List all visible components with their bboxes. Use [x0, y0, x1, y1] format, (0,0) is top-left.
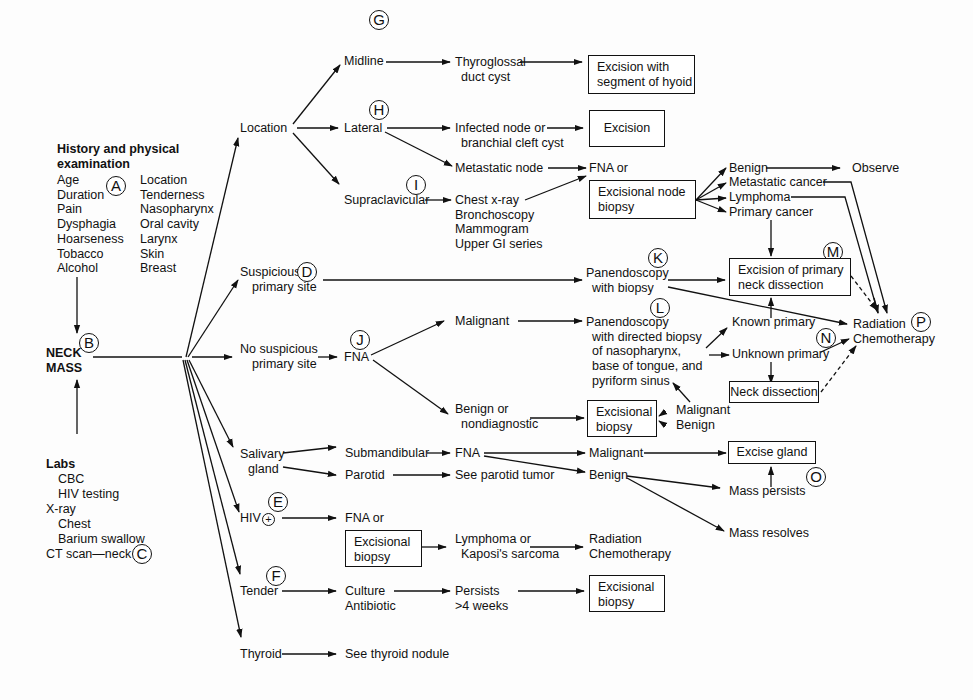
tender-excisional-biopsy-box: Excisional biopsy	[589, 575, 665, 612]
marker-p: P	[911, 312, 931, 332]
marker-e: E	[268, 492, 288, 512]
marker-h: H	[369, 100, 389, 120]
xray-item: Chest	[58, 517, 91, 532]
persists-label: Persists	[455, 584, 499, 599]
branch-hiv: HIV+	[240, 511, 275, 526]
marker-d: D	[297, 262, 317, 282]
thyroglossal-label: Thyroglossal	[455, 55, 526, 70]
parotid-label: Parotid	[345, 468, 385, 483]
neck-dissection-box: Neck dissection	[729, 381, 819, 403]
exam-item: Skin	[140, 247, 214, 262]
marker-k: K	[648, 248, 668, 268]
fna-or-label: FNA or	[589, 161, 628, 176]
lab-item: HIV testing	[58, 487, 119, 502]
neck-mass-label-line2: MASS	[46, 361, 82, 376]
pan-line: Panendoscopy	[586, 315, 703, 330]
mass-resolves-label: Mass resolves	[729, 526, 809, 541]
box-line: biopsy	[596, 420, 648, 435]
panendoscopy-label-line2: with biopsy	[592, 281, 654, 296]
supraclavicular-tests: Chest x-ray Bronchoscopy Mammogram Upper…	[455, 193, 543, 252]
box-line: biopsy	[598, 200, 687, 215]
box-line: biopsy	[354, 550, 413, 565]
excisional-biopsy-box: Excisional biopsy	[587, 400, 657, 437]
hiv-excisional-biopsy-box: Excisional biopsy	[345, 530, 422, 567]
lab-item: CBC	[58, 472, 84, 487]
neck-mass-label: NECK	[46, 346, 81, 361]
history-item: Tobacco	[57, 247, 124, 262]
box-line: Excisional node	[598, 185, 687, 200]
exam-item: Tenderness	[140, 188, 214, 203]
branch-tender: Tender	[240, 584, 278, 599]
antibiotic-label: Antibiotic	[345, 599, 396, 614]
test-item: Upper GI series	[455, 237, 543, 252]
outcome-primary: Primary cancer	[729, 205, 813, 220]
xray-item: Barium swallow	[58, 532, 145, 547]
history-col2: Location Tenderness Nasopharynx Oral cav…	[140, 173, 214, 276]
observe-label: Observe	[852, 161, 899, 176]
mass-persists-label: Mass persists	[729, 484, 805, 499]
hiv-chemotherapy-label: Chemotherapy	[589, 547, 671, 562]
exam-item: Nasopharynx	[140, 202, 214, 217]
lateral-label: Lateral	[344, 121, 382, 136]
eb-benign-label: Benign	[676, 418, 715, 433]
infected-node-label-line2: branchial cleft cyst	[461, 136, 564, 151]
box-line: Excisional	[354, 535, 413, 550]
midline-label: Midline	[344, 54, 384, 69]
salivary-malignant-label: Malignant	[589, 446, 643, 461]
hiv-fna-or-label: FNA or	[345, 511, 384, 526]
history-title: History and physical	[57, 142, 179, 157]
outcome-metastatic: Metastatic cancer	[729, 175, 827, 190]
marker-n: N	[816, 328, 836, 348]
excision-primary-box: Excision of primary neck dissection	[729, 258, 851, 296]
lymphoma-kaposi-label: Lymphoma or	[455, 532, 531, 547]
exam-item: Breast	[140, 261, 214, 276]
history-item: Alcohol	[57, 261, 124, 276]
pan-line: pyriform sinus	[586, 374, 703, 389]
supraclavicular-label: Supraclavicular	[344, 193, 429, 208]
history-item: Pain	[57, 202, 124, 217]
branch-suspicious: Suspicious	[240, 265, 300, 280]
branch-salivary: Salivary	[240, 447, 284, 462]
hiv-label: HIV	[240, 511, 261, 525]
neck-mass-flowchart: History and physical examination Age Dur…	[0, 0, 973, 700]
eb-malignant-label: Malignant	[676, 403, 730, 418]
pan-line: of nasopharynx,	[586, 344, 703, 359]
exam-item: Oral cavity	[140, 217, 214, 232]
box-line: Excisional	[598, 580, 656, 595]
branch-thyroid: Thyroid	[240, 647, 282, 662]
xray-label: X-ray	[46, 502, 76, 517]
history-title-line2: examination	[57, 157, 130, 172]
submandibular-label: Submandibular	[345, 446, 429, 461]
exam-item: Location	[140, 173, 214, 188]
marker-o: O	[806, 467, 826, 487]
salivary-fna-label: FNA	[455, 446, 480, 461]
branch-location: Location	[240, 121, 287, 136]
excision-box: Excision	[589, 110, 665, 147]
branch-salivary-line2: gland	[248, 462, 279, 477]
panendoscopy-label: Panendoscopy	[586, 266, 669, 281]
metastatic-node-label: Metastatic node	[455, 161, 543, 176]
culture-label: Culture	[345, 584, 385, 599]
test-item: Bronchoscopy	[455, 208, 543, 223]
marker-b: B	[79, 333, 99, 353]
unknown-primary-label: Unknown primary	[732, 347, 829, 362]
lymphoma-kaposi-label-line2: Kaposi's sarcoma	[461, 547, 559, 562]
excision-hyoid-box: Excision with segment of hyoid	[588, 55, 695, 94]
test-item: Chest x-ray	[455, 193, 543, 208]
marker-a: A	[106, 176, 126, 196]
persists-label-line2: >4 weeks	[455, 599, 508, 614]
infected-node-label: Infected node or	[455, 121, 545, 136]
see-parotid-label: See parotid tumor	[455, 468, 554, 483]
outcome-benign: Benign	[729, 161, 768, 176]
known-primary-label: Known primary	[732, 315, 815, 330]
box-line: segment of hyoid	[597, 75, 686, 90]
history-item: Dysphagia	[57, 217, 124, 232]
marker-j: J	[350, 330, 370, 350]
box-line: biopsy	[598, 595, 656, 610]
malignant-label: Malignant	[455, 314, 509, 329]
test-item: Mammogram	[455, 222, 543, 237]
marker-c: C	[132, 544, 152, 564]
branch-suspicious-line2: primary site	[252, 280, 317, 295]
ct-scan-label: CT scan—neck	[46, 547, 131, 562]
pan-line: base of tongue, and	[586, 359, 703, 374]
